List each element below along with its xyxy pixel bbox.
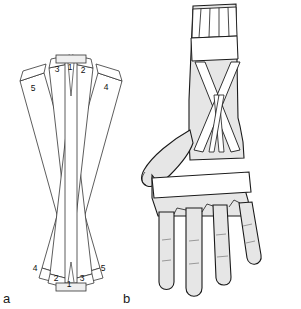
strip-bottom-label-1: 1: [67, 279, 72, 289]
middle-finger: [186, 208, 202, 296]
strip-top-label-2: 2: [81, 65, 86, 75]
panel-a-group: 5 3 1 2 4 4 2 1 3 5: [20, 55, 122, 291]
strip-bottom-label-2: 2: [54, 273, 59, 283]
ring-finger: [213, 205, 231, 285]
index-finger: [159, 212, 174, 290]
panel-label-b: b: [123, 292, 130, 305]
forearm-band: [191, 36, 238, 61]
bandage-figure-illustration: 5 3 1 2 4 4 2 1 3 5: [0, 0, 301, 309]
strip-bottom-label-5: 5: [101, 263, 106, 273]
panel-label-a: a: [3, 292, 10, 305]
strip-top-label-5: 5: [31, 83, 36, 93]
strip-top-label-1: 1: [68, 62, 73, 72]
little-finger: [239, 202, 261, 264]
fan-tab-band: [192, 7, 237, 38]
strip-top-label-4: 4: [104, 82, 109, 92]
figure-container: 5 3 1 2 4 4 2 1 3 5: [0, 0, 301, 309]
strip-bottom-label-4: 4: [33, 263, 38, 273]
fan-strap-tabs: [192, 7, 237, 38]
panel-b-group: [142, 4, 262, 296]
strip-top-label-3: 3: [55, 64, 60, 74]
strip-bottom-label-3: 3: [80, 273, 85, 283]
